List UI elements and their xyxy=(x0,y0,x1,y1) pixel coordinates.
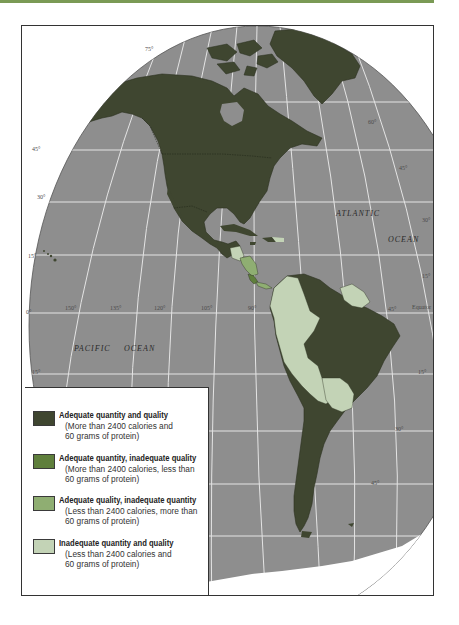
svg-text:45°: 45° xyxy=(32,146,41,152)
map-frame: 75° 45° 30° 15° 0° 15° 60° 45° 30° 15° 1… xyxy=(21,25,434,596)
legend-swatch xyxy=(33,411,55,426)
legend-description: (More than 2400 calories and xyxy=(59,421,177,432)
svg-text:15°: 15° xyxy=(422,273,431,279)
svg-text:30°: 30° xyxy=(395,426,404,432)
legend-description: (More than 2400 calories, less than xyxy=(59,464,208,475)
svg-text:15°: 15° xyxy=(28,253,37,259)
svg-text:120°: 120° xyxy=(154,305,166,311)
legend-title: Adequate quality, inadequate quantity xyxy=(59,495,196,506)
legend-swatch xyxy=(33,496,55,511)
svg-text:150°: 150° xyxy=(65,305,77,311)
svg-text:45°: 45° xyxy=(399,165,408,171)
svg-text:ATLANTIC: ATLANTIC xyxy=(335,209,380,218)
svg-text:135°: 135° xyxy=(110,305,122,311)
svg-text:30°: 30° xyxy=(422,217,431,223)
map-legend: Adequate quantity and quality (More than… xyxy=(25,387,209,595)
legend-description: (Less than 2400 calories, more than xyxy=(59,506,208,517)
svg-text:15°: 15° xyxy=(32,369,41,375)
legend-item-adequate-quantity: Adequate quantity, inadequate quality (M… xyxy=(33,453,208,485)
legend-item-inadequate-both: Inadequate quantity and quality (Less th… xyxy=(33,538,183,570)
svg-text:Equator: Equator xyxy=(412,304,431,310)
svg-text:PACIFIC: PACIFIC xyxy=(73,344,111,353)
region-jamaica xyxy=(250,242,256,245)
legend-description: 60 grams of protein) xyxy=(59,474,208,485)
legend-swatch xyxy=(33,454,55,469)
svg-text:OCEAN: OCEAN xyxy=(388,235,419,244)
svg-text:30°: 30° xyxy=(37,194,46,200)
legend-description: 60 grams of protein) xyxy=(59,431,177,442)
svg-text:45°: 45° xyxy=(371,480,380,486)
svg-text:75°: 75° xyxy=(145,46,154,52)
legend-title: Adequate quantity, inadequate quality xyxy=(59,453,196,464)
svg-text:60°: 60° xyxy=(368,119,377,125)
svg-text:15°: 15° xyxy=(418,369,427,375)
svg-text:90°: 90° xyxy=(248,305,257,311)
svg-text:105°: 105° xyxy=(201,305,213,311)
legend-description: 60 grams of protein) xyxy=(59,559,183,570)
legend-title: Adequate quantity and quality xyxy=(59,410,168,421)
legend-item-adequate-quality: Adequate quality, inadequate quantity (L… xyxy=(33,495,208,527)
legend-item-adequate-both: Adequate quantity and quality (More than… xyxy=(33,410,177,442)
legend-description: 60 grams of protein) xyxy=(59,516,208,527)
header-accent-bar xyxy=(0,0,434,3)
svg-text:0°: 0° xyxy=(26,309,32,315)
svg-text:OCEAN: OCEAN xyxy=(124,344,155,353)
legend-title: Inadequate quantity and quality xyxy=(59,538,174,549)
legend-description: (Less than 2400 calories and xyxy=(59,549,183,560)
svg-text:45°: 45° xyxy=(388,306,397,312)
legend-swatch xyxy=(33,539,55,554)
